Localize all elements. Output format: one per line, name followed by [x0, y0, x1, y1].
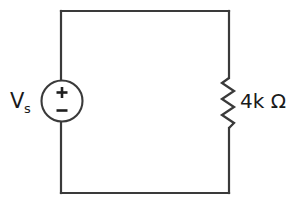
- voltage-source-label: V s: [10, 89, 31, 116]
- resistor-label: 4k Ω: [240, 89, 286, 113]
- circuit-diagram: V s 4k Ω: [0, 0, 301, 204]
- resistor-zigzag: [222, 78, 234, 128]
- circuit-canvas: V s 4k Ω: [0, 0, 301, 204]
- voltage-source-circle: [42, 81, 83, 122]
- voltage-source-label-main: V: [10, 89, 25, 113]
- voltage-source-label-subscript: s: [24, 101, 31, 116]
